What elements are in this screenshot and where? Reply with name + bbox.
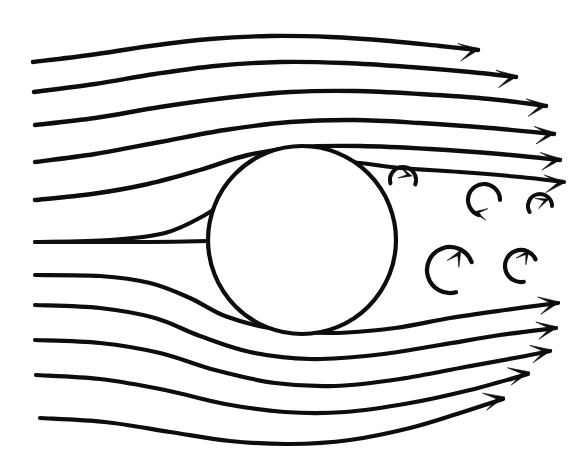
flow-diagram-canvas (0, 0, 581, 466)
cylinder-outline (208, 146, 396, 334)
cylinder-body (208, 146, 396, 334)
flow-diagram-figure (0, 0, 581, 466)
streamline (35, 241, 208, 242)
